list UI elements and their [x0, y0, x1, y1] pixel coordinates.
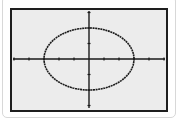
- ellipse-plot: [0, 0, 180, 122]
- axes: [13, 11, 165, 108]
